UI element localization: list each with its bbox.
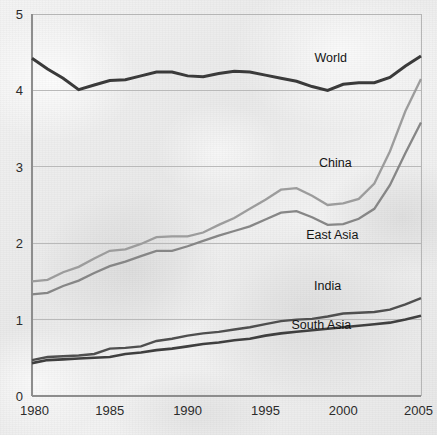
x-tick-label-1995: 1995 (251, 403, 280, 418)
x-tick-label-1990: 1990 (173, 403, 202, 418)
y-tick-label-2: 2 (16, 236, 23, 251)
series-line-china (32, 79, 421, 281)
y-tick-label-4: 4 (16, 83, 23, 98)
series-label-south-asia: South Asia (292, 318, 352, 332)
series-label-east-asia: East Asia (306, 228, 358, 242)
y-tick-label-3: 3 (16, 160, 23, 175)
line-chart: 012345198019851990199520002005WorldChina… (0, 0, 437, 435)
x-tick-label-1980: 1980 (20, 403, 49, 418)
y-tick-label-5: 5 (16, 7, 23, 22)
series-line-world (32, 56, 421, 90)
series-label-china: China (319, 156, 352, 170)
series-line-east-asia (32, 122, 421, 294)
series-label-india: India (314, 279, 341, 293)
series-line-india (32, 298, 421, 360)
series-line-south-asia (32, 316, 421, 363)
x-tick-label-2005: 2005 (404, 403, 433, 418)
x-tick-label-1985: 1985 (95, 403, 124, 418)
x-tick-label-2000: 2000 (329, 403, 358, 418)
series-label-world: World (315, 51, 347, 65)
y-tick-label-1: 1 (16, 313, 23, 328)
y-tick-label-0: 0 (16, 389, 23, 404)
chart-page: 012345198019851990199520002005WorldChina… (0, 0, 437, 435)
